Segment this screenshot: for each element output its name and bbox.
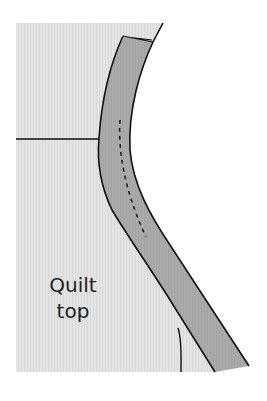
quilt-top-label-line2: top <box>28 298 118 324</box>
quilt-top-label: Quilt top <box>28 272 118 324</box>
quilt-top-label-line1: Quilt <box>28 272 118 298</box>
binding-diagram <box>0 0 267 401</box>
